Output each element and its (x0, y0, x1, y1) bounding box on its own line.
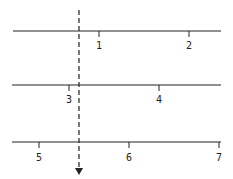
number-lines-diagram: 1 2 3 4 5 6 7 (0, 0, 233, 179)
number-line-row-1: 1 2 (13, 31, 221, 51)
tick-label: 1 (96, 40, 102, 51)
number-line-row-2: 3 4 (12, 85, 221, 105)
number-line-row-3: 5 6 7 (12, 142, 222, 163)
dashed-arrow (75, 10, 83, 175)
arrow-down-icon (75, 168, 83, 175)
tick-label: 5 (36, 152, 42, 163)
tick-label: 7 (216, 152, 222, 163)
tick-label: 6 (126, 152, 132, 163)
tick-label: 4 (156, 94, 162, 105)
tick-label: 2 (186, 40, 192, 51)
tick-label: 3 (66, 94, 72, 105)
